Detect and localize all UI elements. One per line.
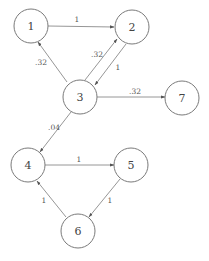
node-1: 1 [14, 9, 48, 43]
edge-5-to-6: 1 [89, 179, 120, 217]
edge-3-to-2: .32 [85, 39, 117, 80]
edge-weight-label: .32 [129, 87, 141, 96]
edge-weight-label: .32 [91, 50, 103, 59]
graph-diagram: 1 .32 .32 1 .32 .04 1 [0, 0, 209, 261]
node-label: 3 [77, 91, 84, 104]
edges: 1 .32 .32 1 .32 .04 1 [35, 15, 165, 218]
node-label: 5 [128, 159, 135, 172]
edge-3-to-7: .32 [97, 87, 165, 98]
node-label: 4 [25, 159, 32, 172]
node-label: 1 [28, 20, 35, 33]
edge-4-to-5: 1 [45, 155, 114, 166]
node-label: 2 [129, 21, 136, 34]
edge-weight-label: .32 [35, 58, 47, 67]
edge-1-to-2: 1 [48, 15, 114, 28]
node-7: 7 [165, 81, 199, 115]
edge-3-to-4: .04 [40, 112, 71, 152]
edge-weight-label: 1 [116, 63, 121, 72]
edge-6-to-4: 1 [37, 181, 66, 217]
edge-weight-label: .04 [48, 123, 60, 132]
node-5: 5 [114, 148, 148, 182]
edge-weight-label: 1 [108, 196, 113, 205]
edge-weight-label: 1 [77, 155, 82, 164]
edge-3-to-1: .32 [35, 42, 67, 82]
edge-weight-label: 1 [75, 15, 80, 24]
nodes: 1 2 3 7 4 5 6 [11, 9, 199, 248]
edge-weight-label: 1 [42, 196, 47, 205]
node-label: 7 [179, 92, 186, 105]
node-4: 4 [11, 148, 45, 182]
node-2: 2 [115, 10, 149, 44]
node-label: 6 [75, 225, 82, 238]
node-3: 3 [63, 80, 97, 114]
node-6: 6 [61, 214, 95, 248]
